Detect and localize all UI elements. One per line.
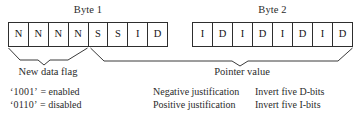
legend-row: ‘0110’ = disabled: [10, 99, 81, 112]
bit-cell: N: [9, 23, 29, 46]
brace-new-data-flag: [9, 48, 88, 65]
bit-cell: N: [69, 23, 89, 46]
bit-cell: I: [313, 23, 333, 46]
byte-2-label: Byte 2: [192, 4, 353, 16]
bit-cell: N: [29, 23, 49, 46]
justification-legend: Negative justification Positive justific…: [153, 86, 239, 111]
flag-meaning-disabled: disabled: [48, 99, 81, 110]
justification-negative: Negative justification: [153, 86, 239, 99]
invert-i-bits: Invert five I-bits: [255, 99, 324, 112]
flag-meaning-enabled: enabled: [49, 86, 80, 97]
brace-pointer-value: [91, 48, 353, 66]
flag-code-enabled: ‘1001’: [10, 86, 38, 97]
legend-row: ‘1001’ = enabled: [10, 86, 81, 99]
invert-d-bits: Invert five D-bits: [255, 86, 324, 99]
justification-positive: Positive justification: [153, 99, 239, 112]
bit-cell: S: [108, 23, 128, 46]
bit-cell: D: [213, 23, 233, 46]
byte-1-label: Byte 1: [8, 4, 168, 16]
caption-pointer-value: Pointer value: [182, 66, 302, 78]
bit-cell: I: [193, 23, 213, 46]
bit-cell: D: [148, 23, 167, 46]
byte-pointer-diagram: Byte 1 Byte 2 N N N N S S I D I D I D I …: [0, 0, 361, 119]
bit-cell: D: [333, 23, 352, 46]
bit-cell: D: [293, 23, 313, 46]
new-data-flag-legend: ‘1001’ = enabled ‘0110’ = disabled: [10, 86, 81, 111]
bit-cell: S: [89, 23, 109, 46]
caption-new-data-flag: New data flag: [0, 66, 96, 78]
bit-cell: I: [128, 23, 148, 46]
byte-2-cells: I D I D I D I D: [192, 22, 353, 47]
bit-cell: I: [273, 23, 293, 46]
flag-equals-enabled: =: [40, 86, 46, 97]
byte-1-cells: N N N N S S I D: [8, 22, 168, 47]
bit-cell: N: [49, 23, 69, 46]
bit-cell: I: [233, 23, 253, 46]
bit-cell: D: [253, 23, 273, 46]
flag-code-disabled: ‘0110’: [10, 99, 38, 110]
flag-equals-disabled: =: [40, 99, 46, 110]
invert-legend: Invert five D-bits Invert five I-bits: [255, 86, 324, 111]
